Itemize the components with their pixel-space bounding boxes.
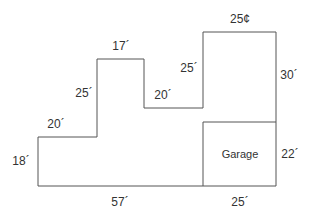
dimension-lower-ledge: 20´ <box>47 117 64 131</box>
dimension-right-wall: 30´ <box>280 68 297 82</box>
dimension-garage-side: 22´ <box>281 147 298 161</box>
house-outline <box>38 32 276 186</box>
dimension-upper-step-top: 17´ <box>112 39 129 53</box>
dimension-top-right: 25¢ <box>230 12 250 26</box>
floor-plan-diagram: Garage 25¢ 17´ 25´ 25´ 20´ 30´ 20´ 18´ 2… <box>0 0 319 217</box>
floor-plan-svg: Garage 25¢ 17´ 25´ 25´ 20´ 30´ 20´ 18´ 2… <box>0 0 319 217</box>
dimension-bottom-garage: 25´ <box>231 195 248 209</box>
dimension-middle-ledge: 20´ <box>154 88 171 102</box>
dimension-upper-step-left: 25´ <box>75 86 92 100</box>
dimension-mid-step-right: 25´ <box>180 61 197 75</box>
dimension-bottom-left: 57´ <box>111 195 128 209</box>
garage-label: Garage <box>222 148 259 160</box>
dimension-left-wall: 18´ <box>12 154 29 168</box>
